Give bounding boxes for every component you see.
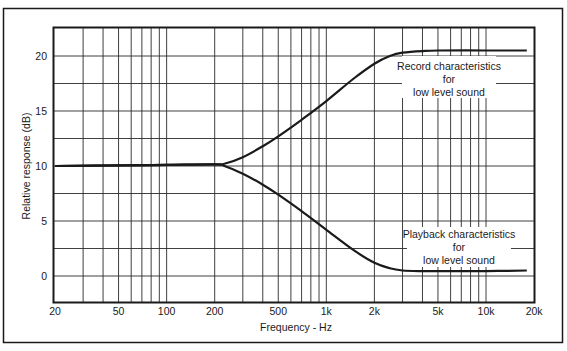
y-tick-label: 10 xyxy=(35,160,47,172)
y-axis-ticks: 05101520 xyxy=(35,50,47,282)
x-tick-label: 20 xyxy=(49,305,61,317)
frequency-response-chart: 20501002005001k2k5k10k20k 05101520 Frequ… xyxy=(0,0,567,351)
x-tick-label: 1k xyxy=(321,305,333,317)
record-label-line2: for xyxy=(443,73,456,85)
x-tick-label: 5k xyxy=(432,305,444,317)
playback-annotation: Playback characteristics for low level s… xyxy=(403,227,516,267)
playback-label-line1: Playback characteristics xyxy=(403,228,516,240)
x-tick-label: 2k xyxy=(369,305,381,317)
x-axis-ticks: 20501002005001k2k5k10k20k xyxy=(49,305,543,317)
record-annotation: Record characteristics for low level sou… xyxy=(397,56,501,98)
record-label-line3: low level sound xyxy=(413,86,485,98)
x-tick-label: 20k xyxy=(526,305,544,317)
x-axis-label: Frequency - Hz xyxy=(260,321,332,333)
record-label-line1: Record characteristics xyxy=(397,60,501,72)
playback-label-line3: low level sound xyxy=(423,254,495,266)
y-tick-label: 15 xyxy=(35,105,47,117)
x-tick-label: 10k xyxy=(478,305,496,317)
y-axis-label: Relative response (dB) xyxy=(20,113,32,220)
y-tick-label: 5 xyxy=(41,215,47,227)
x-tick-label: 200 xyxy=(206,305,224,317)
playback-label-line2: for xyxy=(453,241,466,253)
x-tick-label: 50 xyxy=(113,305,125,317)
x-tick-label: 100 xyxy=(158,305,176,317)
x-tick-label: 500 xyxy=(269,305,287,317)
y-tick-label: 0 xyxy=(41,270,47,282)
y-tick-label: 20 xyxy=(35,50,47,62)
